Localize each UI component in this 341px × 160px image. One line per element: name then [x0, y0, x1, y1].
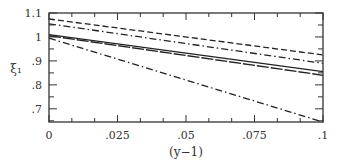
line-chart: 0.025.05.075.1 .7.8.911.1 (y−1) ξ₁ — [0, 0, 341, 160]
series-line — [49, 36, 323, 76]
y-axis-label: ξ₁ — [10, 62, 21, 76]
series-line — [49, 24, 323, 64]
y-tick-label: .8 — [32, 79, 43, 92]
y-tick-label: .7 — [32, 103, 43, 116]
series-line — [49, 35, 323, 72]
x-tick-label: 0 — [46, 129, 53, 142]
x-tick-label: .025 — [105, 129, 130, 142]
chart-svg: 0.025.05.075.1 .7.8.911.1 (y−1) ξ₁ — [0, 0, 341, 160]
y-axis-ticks: .7.8.911.1 — [25, 7, 324, 121]
series-line — [49, 38, 323, 122]
y-tick-label: 1.1 — [25, 7, 43, 20]
x-tick-label: .1 — [318, 129, 329, 142]
series-line — [49, 19, 323, 55]
y-tick-label: 1 — [35, 31, 42, 44]
data-lines — [49, 19, 323, 122]
x-tick-label: .05 — [177, 129, 195, 142]
y-tick-label: .9 — [32, 55, 43, 68]
plot-frame — [49, 13, 323, 122]
x-tick-label: .075 — [242, 129, 267, 142]
x-axis-label: (y−1) — [169, 145, 203, 159]
